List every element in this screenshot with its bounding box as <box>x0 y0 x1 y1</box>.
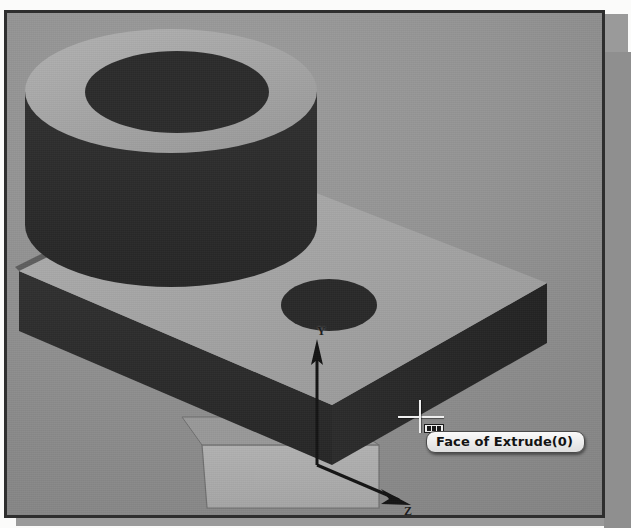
boss-bore[interactable] <box>85 51 269 133</box>
axis-label-z: Z <box>404 504 412 518</box>
entity-tooltip: Face of Extrude(0) <box>426 431 585 453</box>
graphics-viewport[interactable]: Y Z Face of Extrude(0) <box>4 10 605 518</box>
axis-label-y: Y <box>317 324 326 339</box>
plate-hole[interactable] <box>281 279 377 331</box>
crosshair-horizontal <box>398 416 444 418</box>
app-page: Y Z Face of Extrude(0) <box>0 0 631 528</box>
app-background-panel-right <box>604 52 631 528</box>
cylindrical-boss[interactable] <box>25 29 317 287</box>
crosshair-vertical <box>419 400 421 433</box>
